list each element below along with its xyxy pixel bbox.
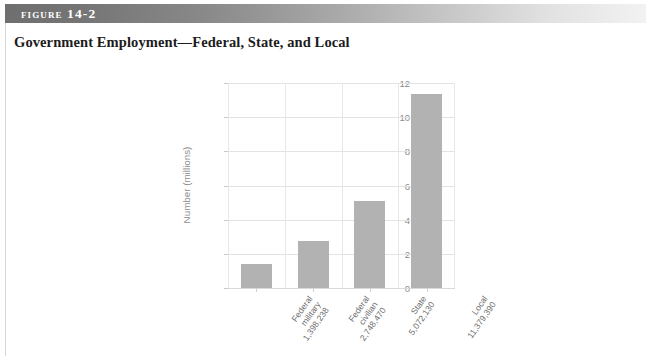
x-category-label-local: Local11,379,390 <box>457 294 498 340</box>
y-axis-title: Number (millions) <box>181 147 192 224</box>
gridline-x-2 <box>342 83 343 288</box>
plot-area <box>228 83 455 288</box>
gridline-x-0 <box>228 83 229 288</box>
bar-chart: Number (millions) 024681012 Federalmilit… <box>0 60 646 356</box>
figure-header-bar: Figure 14-2 <box>5 4 646 23</box>
x-category-label-state: State5,072,130 <box>398 294 436 337</box>
x-category-label-federal-military: Federalmilitary1,398,238 <box>284 294 331 343</box>
bar-local[interactable] <box>411 94 442 288</box>
gridline-x-3 <box>398 83 399 288</box>
x-tick-mark-2 <box>370 288 371 292</box>
gridline-x-1 <box>285 83 286 288</box>
x-category-label-federal-civilian: Federalcivilian2,748,470 <box>341 294 388 343</box>
bar-federal-military[interactable] <box>241 264 272 288</box>
gridline-y-0 <box>228 288 455 289</box>
gridline-x-4 <box>454 83 455 288</box>
x-tick-mark-1 <box>313 288 314 292</box>
x-tick-mark-0 <box>256 288 257 292</box>
figure-page: Figure 14-2 Government Employment—Federa… <box>0 0 646 356</box>
figure-number-label: Figure 14-2 <box>21 6 96 22</box>
bar-federal-civilian[interactable] <box>298 241 329 288</box>
x-tick-mark-3 <box>427 288 428 292</box>
bar-state[interactable] <box>354 201 385 288</box>
figure-title: Government Employment—Federal, State, an… <box>14 34 350 51</box>
